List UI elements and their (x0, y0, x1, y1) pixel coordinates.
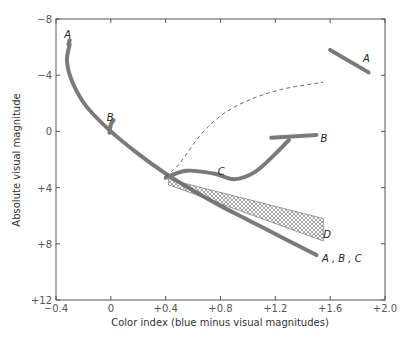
y-tick-label: −8 (37, 14, 52, 25)
x-tick-label: +1.6 (318, 303, 342, 314)
y-tick-label: −4 (37, 70, 52, 81)
y-tick-label: 0 (46, 126, 52, 137)
curve-label: D (323, 229, 331, 240)
x-tick-label: 0 (108, 303, 114, 314)
curve-label: C (218, 166, 225, 177)
b-giant-branch (271, 135, 316, 138)
curve-label: A (362, 53, 370, 64)
y-tick-label: +4 (37, 183, 52, 194)
y-tick-label: +8 (37, 239, 52, 250)
hr-diagram: A , B , CAABBCD −0.40+0.4+0.8+1.2+1.6+2.… (0, 0, 407, 344)
curve-label: A , B , C (321, 253, 362, 264)
c-branch (166, 140, 289, 179)
y-tick-label: +12 (31, 295, 52, 306)
x-tick-label: +1.2 (263, 303, 287, 314)
plot-area: A , B , CAABBCD (63, 29, 370, 263)
curve-label: B (321, 133, 328, 144)
x-tick-label: +0.4 (154, 303, 178, 314)
curve-label: B (107, 112, 114, 123)
dashed-evolutionary-track (166, 82, 324, 176)
x-axis-title: Color index (blue minus visual magnitude… (111, 317, 329, 328)
a-upper (68, 40, 69, 44)
x-tick-label: +2.0 (373, 303, 397, 314)
d-region (168, 179, 323, 241)
y-axis-title: Absolute visual magnitude (11, 93, 22, 226)
x-tick-label: +0.8 (208, 303, 232, 314)
curve-label: A (63, 29, 71, 40)
